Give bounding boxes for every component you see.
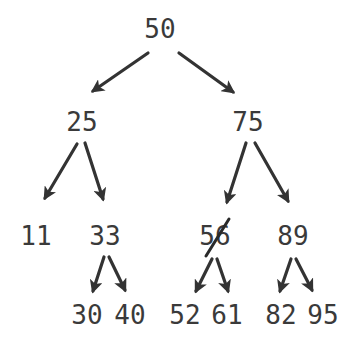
edge-89-82-arrow-icon [280, 259, 291, 291]
node-40: 40 [114, 300, 145, 330]
node-25: 25 [66, 107, 97, 137]
edge-56-52-arrow-icon [196, 259, 212, 291]
node-30: 30 [71, 300, 102, 330]
edges [45, 53, 312, 291]
edge-75-56-arrow-icon [227, 143, 246, 202]
bst-diagram: 50 25 75 11 33 56 89 30 40 52 61 82 95 [0, 0, 361, 337]
node-95: 95 [307, 300, 338, 330]
edge-25-11-arrow-icon [45, 144, 77, 198]
edge-89-95-arrow-icon [296, 259, 312, 290]
node-33: 33 [89, 221, 120, 251]
edge-50-25-arrow-icon [93, 53, 148, 91]
node-52: 52 [169, 300, 200, 330]
edge-56-61-arrow-icon [217, 259, 228, 291]
tree-svg: 50 25 75 11 33 56 89 30 40 52 61 82 95 [0, 0, 361, 337]
edge-50-75-arrow-icon [179, 53, 233, 92]
node-82: 82 [265, 300, 296, 330]
node-50: 50 [144, 14, 175, 44]
node-89: 89 [277, 221, 308, 251]
node-11: 11 [20, 221, 51, 251]
nodes: 50 25 75 11 33 56 89 30 40 52 61 82 95 [20, 14, 338, 330]
edge-33-30-arrow-icon [93, 257, 104, 291]
edge-25-33-arrow-icon [85, 143, 103, 199]
edge-75-89-arrow-icon [255, 143, 288, 201]
edge-33-40-arrow-icon [109, 257, 125, 290]
node-75: 75 [232, 107, 263, 137]
node-61: 61 [211, 300, 242, 330]
